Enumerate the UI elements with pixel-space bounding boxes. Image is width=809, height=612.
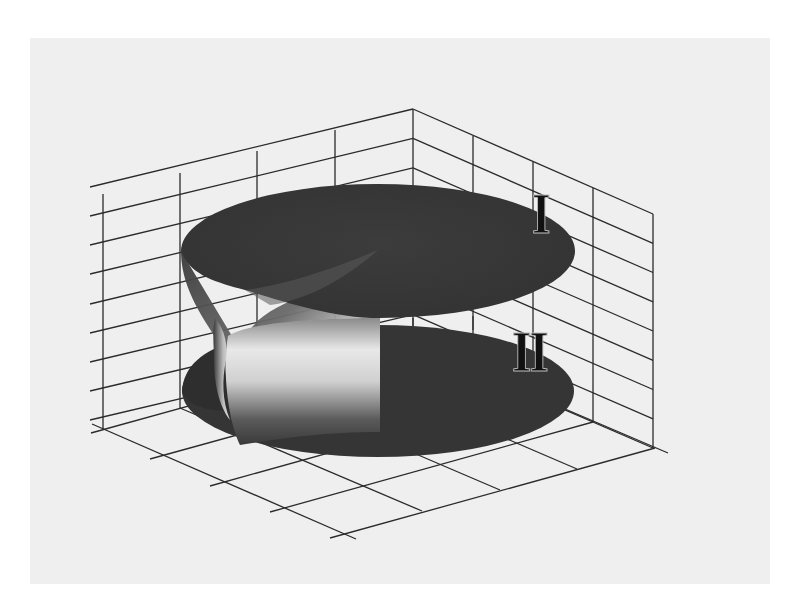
figure-canvas: I II	[0, 0, 809, 612]
surface-plot	[0, 0, 809, 612]
sheet-label-I: I	[532, 186, 549, 242]
sheet-I-surface	[181, 184, 575, 318]
sheet-label-II: II	[512, 323, 547, 381]
